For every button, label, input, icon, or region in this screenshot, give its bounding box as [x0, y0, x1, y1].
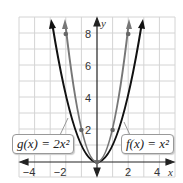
y-tick-4: 4 — [85, 92, 91, 104]
g-arrow-right — [126, 19, 132, 29]
graph-canvas: −4 −2 2 4 x 2 4 6 8 y — [0, 0, 183, 183]
f-function-label: f(x) = x² — [121, 134, 174, 154]
x-tick-neg4: −4 — [23, 166, 36, 178]
y-axis-label: y — [100, 17, 106, 29]
g-arrow-left — [62, 19, 68, 29]
g-function-label: g(x) = 2x² — [12, 134, 74, 154]
x-tick-neg2: −2 — [54, 166, 67, 178]
x-axis-label: x — [167, 166, 173, 178]
y-tick-6: 6 — [85, 60, 91, 72]
y-tick-2: 2 — [85, 124, 91, 136]
x-tick-2: 2 — [125, 166, 131, 178]
y-tick-8: 8 — [85, 28, 91, 40]
x-tick-4: 4 — [154, 166, 160, 178]
